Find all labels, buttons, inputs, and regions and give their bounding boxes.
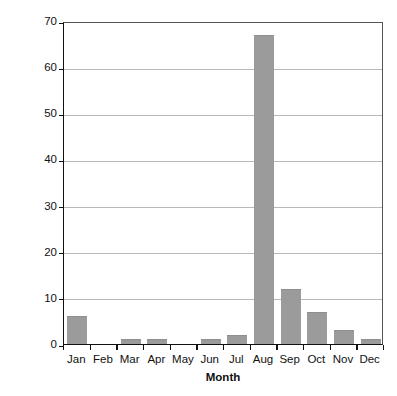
- bar: [121, 339, 141, 344]
- x-axis-tick-mark: [170, 345, 171, 350]
- x-axis-tick-label: Nov: [330, 352, 357, 366]
- x-axis-tick-mark: [250, 345, 251, 350]
- bar-chart-figure: No. of illnesses 010203040506070 JanFebM…: [0, 0, 397, 396]
- x-axis-tick-mark: [196, 345, 197, 350]
- x-axis-tick-label: Oct: [303, 352, 330, 366]
- y-axis-tick-label: 40: [9, 154, 57, 166]
- bar: [307, 312, 327, 344]
- x-axis-tick-label: Aug: [250, 352, 277, 366]
- x-axis-tick-label: Dec: [356, 352, 383, 366]
- x-axis-tick-mark: [143, 345, 144, 350]
- x-axis-tick-mark: [116, 345, 117, 350]
- x-axis-tick-labels: JanFebMarAprMayJunJulAugSepOctNovDec: [63, 352, 383, 368]
- x-axis-title: Month: [63, 371, 383, 383]
- plot-area: [63, 22, 383, 345]
- x-axis-tick-label: Jun: [196, 352, 223, 366]
- y-axis-tick-label: 0: [9, 339, 57, 351]
- y-axis-tick-label: 30: [9, 201, 57, 213]
- bar: [147, 339, 167, 344]
- bar: [281, 289, 301, 344]
- x-axis-tick-label: Sep: [276, 352, 303, 366]
- bar: [201, 339, 221, 344]
- cropped-caption-text: [0, 0, 397, 3]
- x-axis-tick-label: Apr: [143, 352, 170, 366]
- x-axis-tick-label: Jan: [63, 352, 90, 366]
- y-axis-tick-label: 70: [9, 16, 57, 28]
- y-axis-tick-label: 60: [9, 62, 57, 74]
- x-axis-tick-mark: [63, 345, 64, 350]
- y-axis-tick-label: 20: [9, 247, 57, 259]
- x-axis-tick-mark: [90, 345, 91, 350]
- x-axis-tick-label: Mar: [116, 352, 143, 366]
- y-axis-tick-labels: 010203040506070: [5, 22, 57, 345]
- y-axis-tick-label: 10: [9, 293, 57, 305]
- x-axis-tick-mark: [223, 345, 224, 350]
- x-axis-tick-label: Jul: [223, 352, 250, 366]
- x-axis-tick-marks: [63, 345, 383, 351]
- x-axis-tick-mark: [276, 345, 277, 350]
- bar-series: [64, 23, 382, 344]
- x-axis-tick-mark: [383, 345, 384, 350]
- bar: [227, 335, 247, 344]
- x-axis-tick-mark: [356, 345, 357, 350]
- bar: [67, 316, 87, 344]
- x-axis-tick-label: Feb: [90, 352, 117, 366]
- y-axis-tick-label: 50: [9, 108, 57, 120]
- x-axis-tick-mark: [303, 345, 304, 350]
- bar: [254, 35, 274, 344]
- bar: [334, 330, 354, 344]
- x-axis-tick-mark: [330, 345, 331, 350]
- bar: [361, 339, 381, 344]
- x-axis-tick-label: May: [170, 352, 197, 366]
